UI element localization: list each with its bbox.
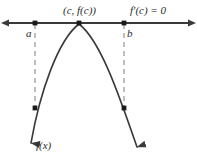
right-endpoint-label: b [127,28,133,39]
point-a-on-axis [33,21,38,26]
left-endpoint-label: a [26,28,32,39]
point-b-on-curve [122,106,127,111]
parabola-left-branch [31,24,79,143]
parabola-right-branch [79,24,137,147]
figure-canvas [0,0,197,163]
point-a-on-curve [33,106,38,111]
function-curve-label: f(x) [36,140,51,151]
point-c-vertex [77,21,82,26]
rolles-theorem-figure: (c, f(c)) f'(c) = 0 a b f(x) [0,0,197,163]
vertex-point-label: (c, f(c)) [63,5,96,16]
derivative-zero-label: f'(c) = 0 [130,5,166,16]
point-b-on-axis [122,21,127,26]
